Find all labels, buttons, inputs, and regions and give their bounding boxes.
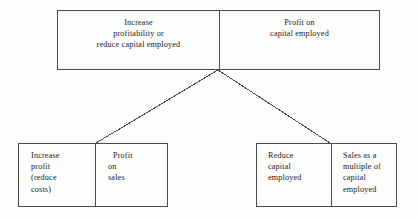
cell-text-line: sales	[108, 172, 125, 183]
cell-text-line: Profit	[108, 150, 133, 161]
cell-text-line: Sales as a	[343, 150, 376, 161]
cell-text-line: capital	[343, 172, 366, 183]
node-cell-reduce-capital-employed: Reduce capital employed	[257, 144, 331, 206]
cell-text-line: capital	[268, 161, 291, 172]
node-cell-increase-profit-reduce-costs: Increase profit (reduce costs)	[19, 144, 95, 206]
cell-text-line: Increase	[31, 150, 60, 161]
top-node-box: Increase profitability or reduce capital…	[57, 10, 380, 70]
cell-text-line: profitability or	[113, 28, 164, 39]
cell-text-line: on	[108, 161, 117, 172]
cell-text-line: Increase	[124, 17, 153, 28]
connector-to-bottom-right	[218, 70, 330, 143]
cell-text-line: profit	[31, 161, 50, 172]
bottom-right-node-box: Reduce capital employed Sales as a multi…	[256, 143, 397, 207]
cell-text-line: multiple of	[343, 161, 381, 172]
node-cell-profit-on-capital-employed: Profit on capital employed	[219, 11, 379, 69]
bottom-left-node-box: Increase profit (reduce costs) Profit on…	[18, 143, 168, 207]
cell-text-line: employed	[343, 184, 377, 195]
connector-to-bottom-left	[96, 70, 218, 143]
node-cell-increase-profitability: Increase profitability or reduce capital…	[58, 11, 219, 69]
node-cell-profit-on-sales: Profit on sales	[95, 144, 167, 206]
cell-text-line: (reduce	[31, 172, 57, 183]
cell-text-line: Profit on	[284, 17, 314, 28]
cell-text-line: Reduce	[268, 150, 294, 161]
cell-text-line: employed	[268, 172, 302, 183]
cell-text-line: reduce capital employed	[97, 39, 181, 50]
node-cell-sales-as-multiple-of-capital-employed: Sales as a multiple of capital employed	[331, 144, 396, 206]
cell-text-line: capital employed	[270, 28, 329, 39]
diagram-canvas: Increase profitability or reduce capital…	[0, 0, 417, 218]
cell-text-line: costs)	[31, 184, 51, 195]
